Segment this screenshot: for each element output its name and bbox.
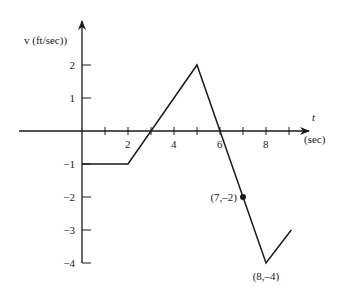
x-tick-label: 6 [217, 138, 223, 150]
point-label: (7,–2) [210, 191, 237, 204]
x-tick-label: 4 [171, 138, 177, 150]
y-tick-label: −3 [63, 224, 75, 236]
x-axis-unit-label: (sec) [304, 133, 326, 146]
y-tick-label: 2 [70, 59, 76, 71]
y-tick-label: 1 [70, 92, 76, 104]
x-axis-label: t [312, 111, 316, 123]
y-tick-label: −4 [63, 257, 75, 269]
velocity-time-chart: 2468 21−1−2−3−4 v (ft/sec)) t (sec) (7,–… [0, 0, 341, 290]
y-axis-label: v (ft/sec)) [24, 34, 67, 47]
x-tick-label: 2 [125, 138, 131, 150]
x-tick-label: 8 [263, 138, 269, 150]
y-tick-label: −2 [63, 191, 75, 203]
velocity-line [82, 65, 291, 263]
point-marker [240, 194, 246, 200]
y-tick-label: −1 [63, 158, 75, 170]
point-label: (8,–4) [253, 270, 280, 283]
